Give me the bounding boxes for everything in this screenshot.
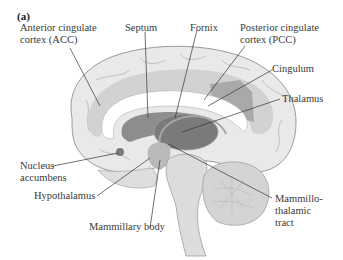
label-mtt-line1: Mammillo- [275, 193, 323, 205]
label-thalamus: Thalamus [282, 93, 323, 105]
label-acc-line1: Anterior cingulate [20, 22, 97, 34]
label-mammillothalamic-tract: Mammillo- thalamic tract [275, 193, 323, 229]
label-nucleus-accumbens: Nucleus accumbens [20, 160, 67, 184]
label-nucleus-accumbens-line2: accumbens [20, 172, 67, 184]
label-pcc-line2: cortex (PCC) [240, 34, 319, 46]
label-mammillary-body: Mammillary body [89, 221, 165, 233]
label-mtt-line2: thalamic [275, 205, 323, 217]
temporal-lobe [98, 168, 157, 188]
label-mtt-line3: tract [275, 217, 323, 229]
nucleus-accumbens [116, 148, 124, 156]
brainstem [166, 154, 207, 256]
label-septum: Septum [125, 22, 157, 34]
label-acc-line2: cortex (ACC) [20, 34, 97, 46]
cerebellum [203, 162, 269, 225]
label-acc: Anterior cingulate cortex (ACC) [20, 22, 97, 46]
label-nucleus-accumbens-line1: Nucleus [20, 160, 67, 172]
label-cingulum: Cingulum [272, 63, 314, 75]
label-hypothalamus: Hypothalamus [34, 190, 95, 202]
label-pcc-line1: Posterior cingulate [240, 22, 319, 34]
label-pcc: Posterior cingulate cortex (PCC) [240, 22, 319, 46]
label-fornix: Fornix [190, 22, 218, 34]
